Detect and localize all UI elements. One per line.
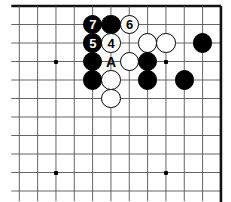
stone-black[interactable] (83, 52, 103, 72)
star-point (54, 171, 58, 175)
move-number-label: 7 (89, 18, 96, 31)
stone-black[interactable] (83, 70, 103, 90)
move-number-label: 4 (108, 37, 115, 50)
go-board-diagram: 7654A (0, 0, 231, 202)
stone-white[interactable] (120, 52, 140, 72)
stone-white[interactable] (156, 33, 176, 53)
star-point (164, 60, 168, 64)
stone-black[interactable] (175, 70, 195, 90)
stone-white-move-4[interactable]: 4 (101, 33, 121, 53)
stone-layer: 7654A (0, 0, 231, 202)
stone-black-move-5[interactable]: 5 (83, 33, 103, 53)
star-point (54, 60, 58, 64)
star-point (164, 171, 168, 175)
stone-white-move-6[interactable]: 6 (120, 15, 140, 35)
stone-black[interactable] (193, 33, 213, 53)
move-number-label: 6 (126, 18, 133, 31)
stone-black[interactable] (101, 15, 121, 35)
stone-white[interactable] (101, 70, 121, 90)
stone-white[interactable] (101, 89, 121, 109)
stone-black[interactable] (138, 70, 158, 90)
stone-white[interactable] (138, 33, 158, 53)
stone-black-move-7[interactable]: 7 (83, 15, 103, 35)
stone-black[interactable] (138, 52, 158, 72)
move-number-label: 5 (89, 37, 96, 50)
point-label-a: A (101, 52, 121, 72)
